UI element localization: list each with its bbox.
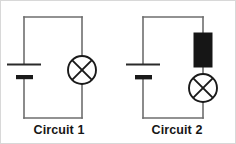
circuit-2-resistor — [194, 33, 212, 67]
circuit-2-schematic — [118, 0, 236, 122]
resistor-body-icon — [194, 33, 212, 67]
circuit-diagram-figure: Circuit 1 — [0, 0, 236, 144]
battery-negative-plate — [135, 75, 152, 79]
circuit-1-caption: Circuit 1 — [0, 123, 118, 138]
circuit-2-lamp — [189, 74, 217, 102]
circuit-2-caption: Circuit 2 — [118, 123, 236, 138]
battery-negative-plate — [16, 75, 33, 79]
circuit-1-battery — [7, 65, 41, 80]
circuit-2: Circuit 2 — [118, 0, 236, 144]
circuit-1-schematic — [0, 0, 118, 122]
circuit-1: Circuit 1 — [0, 0, 118, 144]
circuit-2-battery — [126, 65, 160, 80]
circuit-1-lamp — [68, 56, 96, 84]
